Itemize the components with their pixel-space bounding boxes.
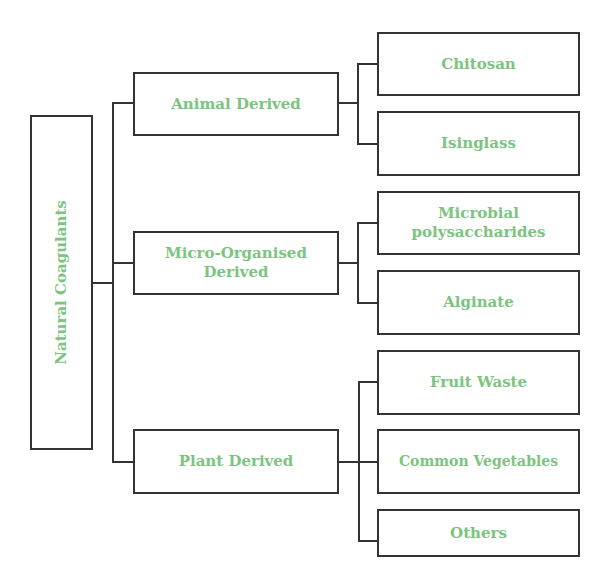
- connector-to-alginate: [357, 302, 378, 304]
- connector-micro-trunk: [338, 262, 358, 264]
- leaf-label: Chitosan: [441, 55, 516, 74]
- leaf-label: Alginate: [443, 293, 514, 312]
- category-label: Micro-Organised Derived: [135, 244, 337, 282]
- connector-to-plant: [112, 461, 134, 463]
- leaf-node-microbial-polysaccharides: Microbial polysaccharides: [377, 191, 580, 255]
- leaf-node-alginate: Alginate: [377, 270, 580, 335]
- connector-micro-spine: [357, 222, 359, 303]
- leaf-node-chitosan: Chitosan: [377, 32, 580, 96]
- connector-root-trunk: [92, 282, 113, 284]
- connector-to-animal: [112, 102, 134, 104]
- connector-to-others: [358, 540, 378, 542]
- category-node-animal: Animal Derived: [133, 72, 339, 136]
- connector-animal-spine: [357, 63, 359, 144]
- category-node-plant: Plant Derived: [133, 429, 339, 494]
- leaf-label: Isinglass: [441, 134, 516, 153]
- leaf-label: Common Vegetables: [399, 452, 558, 471]
- category-node-micro: Micro-Organised Derived: [133, 231, 339, 295]
- root-label: Natural Coagulants: [52, 200, 71, 365]
- category-label: Plant Derived: [179, 452, 294, 471]
- leaf-label: Microbial polysaccharides: [379, 204, 578, 242]
- leaf-node-isinglass: Isinglass: [377, 111, 580, 176]
- leaf-node-common-vegetables: Common Vegetables: [377, 429, 580, 494]
- connector-to-micro: [112, 262, 134, 264]
- connector-plant-spine: [358, 381, 360, 542]
- connector-root-spine: [112, 102, 114, 463]
- root-node: Natural Coagulants: [30, 115, 93, 450]
- category-label: Animal Derived: [171, 95, 301, 114]
- connector-to-microbial: [357, 222, 378, 224]
- leaf-node-others: Others: [377, 509, 580, 557]
- connector-animal-trunk: [338, 102, 358, 104]
- leaf-label: Others: [450, 524, 507, 543]
- connector-to-fruit-waste: [358, 381, 378, 383]
- connector-to-chitosan: [357, 63, 378, 65]
- leaf-label: Fruit Waste: [430, 373, 527, 392]
- connector-to-isinglass: [357, 143, 378, 145]
- leaf-node-fruit-waste: Fruit Waste: [377, 350, 580, 415]
